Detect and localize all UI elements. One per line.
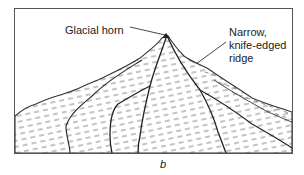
panel-letter: b bbox=[160, 158, 166, 170]
knife-edged-ridge-label: Narrow, knife-edged ridge bbox=[229, 26, 287, 65]
ridge-label-line-1: Narrow, bbox=[229, 26, 287, 39]
horn-leader-line bbox=[130, 27, 165, 35]
ridge-leader-line bbox=[196, 42, 226, 64]
ridge-label-line-2: knife-edged bbox=[229, 39, 287, 52]
glacial-horn-label: Glacial horn bbox=[65, 24, 124, 37]
ridge-label-line-3: ridge bbox=[229, 52, 287, 65]
